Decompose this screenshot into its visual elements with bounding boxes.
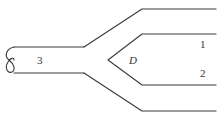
branch-2-outer-wall — [84, 73, 216, 111]
branch-1-outer-wall — [84, 9, 216, 47]
label-junction-d: D — [128, 54, 137, 66]
label-branch-1: 1 — [200, 38, 206, 50]
pipe-junction-diagram: 3 D 1 2 — [0, 0, 222, 120]
pipe-break-symbol — [6, 47, 14, 72]
label-pipe-3: 3 — [37, 54, 43, 66]
label-branch-2: 2 — [200, 67, 206, 79]
